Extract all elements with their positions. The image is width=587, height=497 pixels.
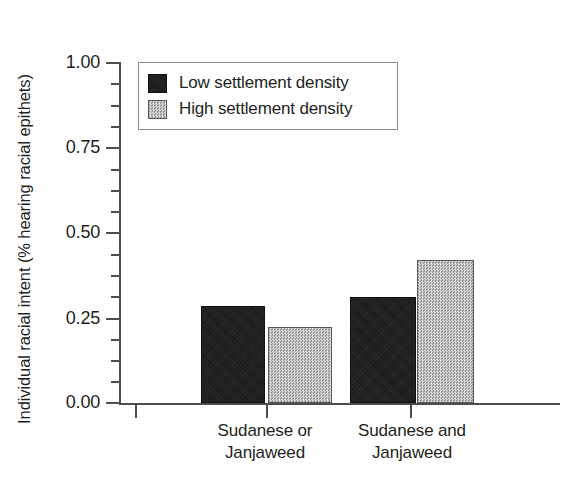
y-axis-title: Individual racial intent (% hearing raci… bbox=[15, 74, 34, 424]
x-tick-left bbox=[135, 403, 137, 418]
x-group-label-line2: Janjaweed bbox=[358, 442, 466, 464]
y-tick-minor-4 bbox=[111, 169, 119, 171]
y-tick-minor-8 bbox=[111, 275, 119, 277]
x-group-label-line1: Sudanese and bbox=[358, 420, 466, 442]
x-group-label-line2: Janjaweed bbox=[218, 442, 313, 464]
x-group-label-line1: Sudanese or bbox=[218, 420, 313, 442]
y-tick-minor-11 bbox=[111, 360, 119, 362]
y-axis-title-container: Individual racial intent (% hearing raci… bbox=[0, 0, 48, 497]
x-tick-middle bbox=[266, 403, 268, 418]
y-tick-label-0.25: 0.25 bbox=[66, 308, 100, 329]
y-tick-minor-9 bbox=[111, 296, 119, 298]
y-tick-minor-10 bbox=[111, 339, 119, 341]
y-tick-label-0.00: 0.00 bbox=[66, 392, 100, 413]
bar-high-density-sudanese-and-janjaweed bbox=[417, 260, 474, 403]
y-tick-major-0.25: 0.25 bbox=[106, 318, 119, 320]
y-tick-minor-2 bbox=[111, 105, 119, 107]
chart-legend: Low settlement density High settlement d… bbox=[138, 62, 398, 130]
y-tick-label-0.75: 0.75 bbox=[66, 137, 100, 158]
x-group-label-sudanese-or-janjaweed: Sudanese or Janjaweed bbox=[218, 420, 313, 465]
y-tick-major-0.00: 0.00 bbox=[106, 402, 119, 404]
legend-swatch-light-icon bbox=[148, 100, 167, 119]
y-tick-major-1.00: 1.00 bbox=[106, 62, 119, 64]
x-tick-right bbox=[410, 403, 412, 418]
y-tick-label-0.50: 0.50 bbox=[66, 222, 100, 243]
y-axis-line bbox=[119, 62, 121, 403]
legend-entry-high-settlement-density: High settlement density bbox=[148, 96, 388, 122]
y-tick-minor-12 bbox=[111, 381, 119, 383]
y-tick-major-0.75: 0.75 bbox=[106, 147, 119, 149]
bar-low-density-sudanese-and-janjaweed bbox=[350, 297, 416, 403]
y-tick-minor-7 bbox=[111, 254, 119, 256]
legend-label-high-settlement-density: High settlement density bbox=[179, 99, 352, 119]
bar-chart-figure: Individual racial intent (% hearing raci… bbox=[0, 0, 587, 497]
x-axis-line bbox=[119, 403, 560, 405]
y-tick-minor-6 bbox=[111, 211, 119, 213]
legend-swatch-dark-icon bbox=[148, 74, 167, 93]
bar-low-density-sudanese-or-janjaweed bbox=[201, 306, 265, 403]
y-tick-label-1.00: 1.00 bbox=[66, 52, 100, 73]
legend-entry-low-settlement-density: Low settlement density bbox=[148, 70, 388, 96]
bar-high-density-sudanese-or-janjaweed bbox=[268, 327, 332, 403]
y-tick-major-0.50: 0.50 bbox=[106, 232, 119, 234]
y-tick-minor-3 bbox=[111, 126, 119, 128]
legend-label-low-settlement-density: Low settlement density bbox=[179, 73, 349, 93]
x-group-label-sudanese-and-janjaweed: Sudanese and Janjaweed bbox=[358, 420, 466, 465]
y-tick-minor-5 bbox=[111, 190, 119, 192]
y-tick-minor-1 bbox=[111, 83, 119, 85]
